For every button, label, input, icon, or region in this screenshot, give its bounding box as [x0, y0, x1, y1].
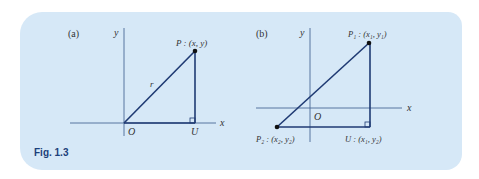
panel-b-x-axis-label: x — [406, 102, 412, 113]
panel-a-u-label: U — [191, 126, 199, 137]
figure-diagram: (a) y x P : (x, y) r O U (b) y x — [0, 0, 479, 179]
panel-a-hypotenuse — [124, 51, 195, 123]
panel-b-y-axis-label: y — [299, 27, 305, 38]
figure-stage: (a) y x P : (x, y) r O U (b) y x — [0, 0, 479, 179]
panel-b-u-label: U : (x₁, y₂) — [345, 134, 382, 144]
panel-b-point-p2 — [275, 125, 280, 130]
panel-a-point-p — [193, 49, 198, 54]
figure-caption: Fig. 1.3 — [34, 147, 68, 158]
panel-b-origin-label: O — [314, 111, 321, 122]
panel-b-p2-label: P₂ : (x₂, y₂) — [255, 134, 295, 144]
panel-b-point-p1 — [367, 41, 372, 46]
panel-a: (a) y x P : (x, y) r O U — [68, 27, 225, 137]
panel-a-y-axis-label: y — [113, 27, 119, 38]
panel-b: (b) y x P₁ : (x₁, y₁) P₂ : (x₂, y₂) U : … — [255, 27, 412, 144]
panel-a-origin-label: O — [128, 126, 135, 137]
panel-b-p1-label: P₁ : (x₁, y₁) — [347, 29, 387, 39]
panel-a-point-label: P : (x, y) — [175, 38, 207, 48]
panel-a-label: (a) — [68, 28, 79, 40]
panel-b-label: (b) — [256, 28, 268, 40]
panel-b-hypotenuse — [277, 43, 369, 127]
panel-a-x-axis-label: x — [219, 117, 225, 128]
panel-a-r-label: r — [150, 79, 154, 89]
